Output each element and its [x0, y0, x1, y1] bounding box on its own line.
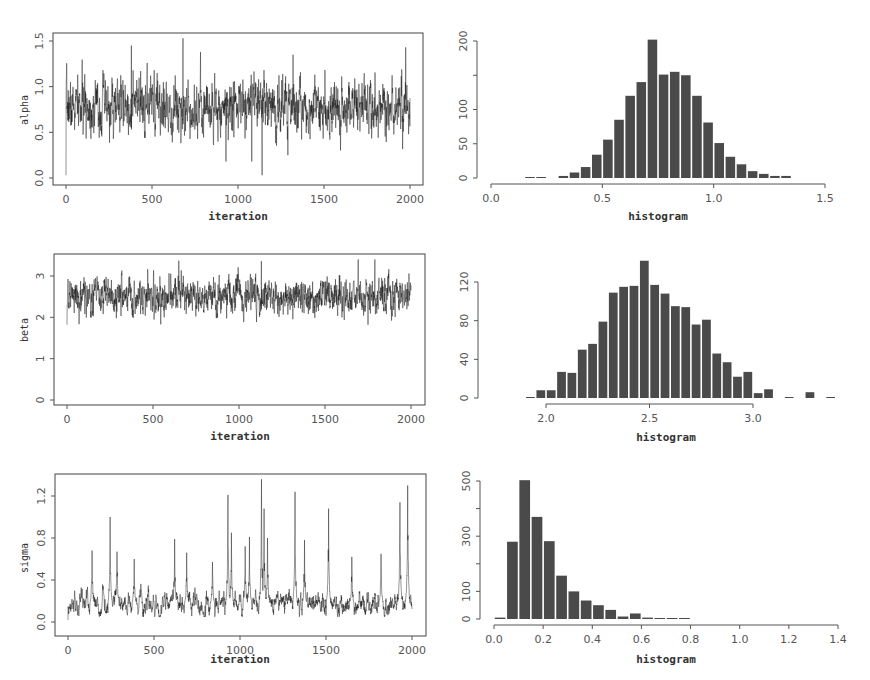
histogram-bar	[655, 618, 666, 619]
histogram-bar	[670, 72, 680, 178]
svg-text:100: 100	[457, 99, 470, 120]
svg-text:0.0: 0.0	[33, 169, 46, 187]
svg-text:1.4: 1.4	[829, 633, 847, 646]
histogram-bar	[692, 325, 701, 398]
histogram-bar	[737, 164, 747, 178]
histogram-bar	[770, 176, 780, 178]
svg-text:1.2: 1.2	[35, 487, 48, 505]
svg-text:2000: 2000	[397, 413, 425, 426]
histogram-bar	[743, 372, 752, 398]
sigma-hist-bars	[495, 480, 690, 619]
histogram-bar	[650, 285, 659, 398]
svg-text:1.0: 1.0	[705, 192, 723, 205]
alpha-trace-ylabel: alpha	[19, 95, 30, 125]
histogram-bar	[599, 322, 608, 398]
sigma-trace-line	[68, 479, 412, 620]
histogram-bar	[526, 397, 535, 398]
histogram-bar	[781, 176, 791, 178]
svg-text:1.5: 1.5	[816, 192, 834, 205]
histogram-bar	[495, 618, 506, 619]
svg-text:1.0: 1.0	[33, 78, 46, 96]
svg-text:1500: 1500	[311, 413, 339, 426]
histogram-bar	[581, 167, 591, 178]
histogram-bar	[605, 610, 616, 619]
histogram-bar	[557, 372, 566, 398]
histogram-bar	[614, 120, 624, 178]
histogram-bar	[726, 157, 736, 178]
histogram-bar	[648, 40, 658, 178]
sigma-trace-panel: 05001000150020000.00.40.81.2 iteration s…	[19, 474, 426, 666]
alpha-hist-panel: 0.00.51.01.5050100200 histogram	[457, 31, 834, 224]
svg-text:2000: 2000	[396, 193, 424, 206]
alpha-trace-panel: 05001000150020000.00.51.01.5 iteration a…	[19, 32, 424, 223]
histogram-bar	[593, 605, 604, 619]
svg-text:0.6: 0.6	[633, 633, 651, 646]
sigma-trace-xlabel: iteration	[210, 653, 270, 666]
histogram-bar	[578, 350, 587, 398]
svg-text:0.0: 0.0	[482, 192, 500, 205]
histogram-bar	[703, 123, 713, 178]
histogram-bar	[640, 261, 649, 398]
histogram-bar	[507, 542, 518, 619]
histogram-bar	[536, 177, 546, 178]
beta-trace-frame	[54, 254, 425, 405]
alpha-trace-xlabel: iteration	[208, 210, 268, 223]
histogram-bar	[667, 618, 678, 619]
histogram-bar	[570, 173, 580, 178]
histogram-bar	[547, 390, 556, 398]
svg-text:2.5: 2.5	[641, 412, 659, 425]
histogram-bar	[581, 601, 592, 619]
histogram-bar	[592, 155, 602, 178]
svg-text:3.0: 3.0	[744, 412, 762, 425]
histogram-bar	[536, 390, 545, 398]
svg-text:0: 0	[64, 413, 71, 426]
svg-text:120: 120	[458, 272, 471, 293]
svg-text:0.5: 0.5	[594, 192, 612, 205]
svg-text:1500: 1500	[310, 193, 338, 206]
histogram-bar	[659, 75, 669, 178]
beta-trace-xlabel: iteration	[210, 430, 270, 443]
sigma-hist-xlabel: histogram	[636, 653, 696, 666]
svg-text:200: 200	[457, 31, 470, 52]
histogram-bar	[609, 293, 618, 398]
svg-text:1.5: 1.5	[33, 32, 46, 50]
svg-text:40: 40	[458, 352, 471, 366]
histogram-bar	[748, 171, 758, 178]
svg-text:3: 3	[34, 273, 47, 280]
histogram-bar	[625, 96, 635, 178]
svg-text:1: 1	[34, 355, 47, 362]
svg-text:2000: 2000	[398, 644, 426, 657]
histogram-bar	[630, 286, 639, 398]
histogram-bar	[559, 176, 569, 178]
histogram-bar	[806, 392, 815, 398]
histogram-bar	[764, 389, 773, 398]
histogram-bar	[785, 397, 794, 398]
svg-text:1.0: 1.0	[731, 633, 749, 646]
svg-text:500: 500	[460, 471, 473, 492]
alpha-hist-bars	[525, 40, 791, 178]
svg-text:500: 500	[143, 413, 164, 426]
histogram-bar	[569, 591, 580, 619]
beta-trace-ylabel: beta	[19, 318, 30, 342]
histogram-bar	[588, 344, 597, 398]
beta-trace-panel: 05001000150020000123 iteration beta	[19, 254, 425, 443]
sigma-hist-panel: 0.00.20.40.60.81.01.21.40100300500 histo…	[460, 471, 847, 667]
sigma-hist-axes: 0.00.20.40.60.81.01.21.40100300500	[460, 471, 847, 647]
svg-text:0: 0	[63, 193, 70, 206]
histogram-bar	[525, 177, 535, 178]
svg-text:0.0: 0.0	[35, 613, 48, 631]
histogram-bar	[630, 613, 641, 619]
svg-text:1000: 1000	[224, 193, 252, 206]
beta-hist-bars	[526, 261, 835, 398]
histogram-bar	[671, 306, 680, 398]
beta-hist-panel: 2.02.53.004080120 histogram	[458, 261, 835, 444]
alpha-trace-line	[66, 38, 410, 175]
svg-text:100: 100	[460, 581, 473, 602]
svg-text:0: 0	[458, 395, 471, 402]
histogram-bar	[661, 294, 670, 398]
histogram-bar	[637, 82, 647, 178]
svg-text:500: 500	[144, 644, 165, 657]
svg-text:0: 0	[34, 397, 47, 404]
svg-text:0.8: 0.8	[682, 633, 700, 646]
sigma-trace-axes: 05001000150020000.00.40.81.2	[35, 487, 426, 657]
